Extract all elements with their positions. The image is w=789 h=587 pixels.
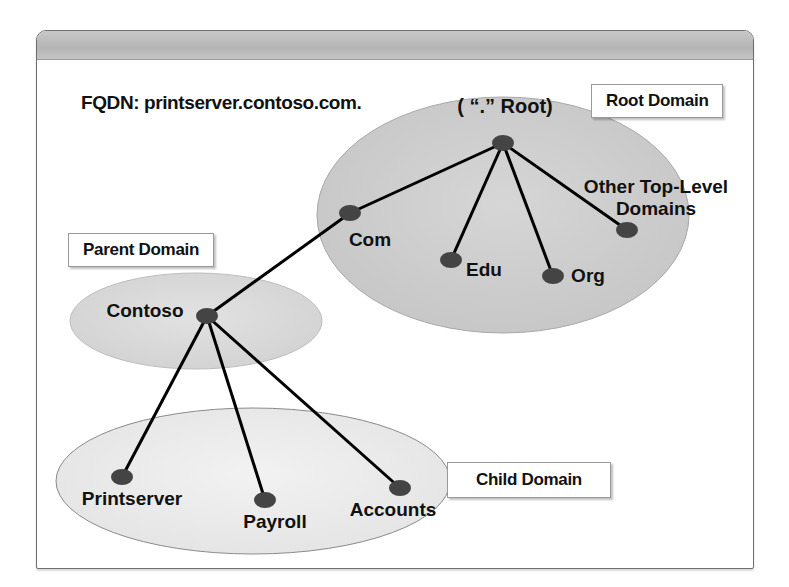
parent-domain-tag: Parent Domain — [68, 233, 214, 267]
node-accounts — [389, 480, 411, 496]
node-root — [492, 135, 514, 151]
node-label-contoso: Contoso — [106, 300, 183, 321]
node-label-other-line2: Domains — [616, 198, 696, 219]
node-label-accounts: Accounts — [350, 499, 437, 520]
node-contoso — [196, 308, 218, 324]
node-edu — [440, 252, 462, 268]
parent-domain-ellipse — [70, 273, 322, 369]
node-org — [542, 268, 564, 284]
node-label-payroll: Payroll — [243, 511, 306, 532]
node-printserver — [111, 469, 133, 485]
node-label-org: Org — [571, 265, 605, 286]
node-label-edu: Edu — [466, 259, 502, 280]
node-label-printserver: Printserver — [82, 488, 183, 509]
node-com — [339, 205, 361, 221]
node-label-com: Com — [349, 229, 391, 250]
node-label-other: Other Top-Level — [584, 176, 728, 197]
fqdn-label: FQDN: printserver.contoso.com. — [81, 92, 361, 114]
node-payroll — [254, 492, 276, 508]
node-other — [616, 222, 638, 238]
node-label-root: ( “.” Root) — [457, 95, 553, 117]
root-domain-tag: Root Domain — [591, 84, 723, 118]
child-domain-tag: Child Domain — [447, 462, 611, 498]
